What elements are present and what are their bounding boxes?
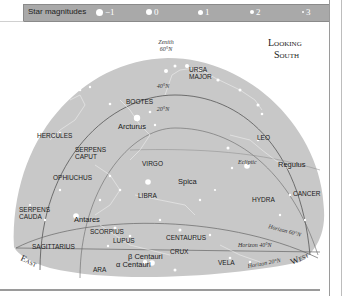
label-leo: LEO bbox=[257, 134, 270, 141]
label-centaurus: CENTAURUS bbox=[166, 234, 207, 241]
label-arcturus: Arcturus bbox=[118, 122, 146, 131]
label-spica: Spica bbox=[178, 177, 198, 186]
label-virgo: VIRGO bbox=[142, 160, 163, 167]
label-hydra: HYDRA bbox=[252, 196, 275, 203]
label-ophiuchus: OPHIUCHUS bbox=[53, 174, 93, 181]
label-ursa-major-2: MAJOR bbox=[189, 73, 212, 80]
heading-line-1: Looking bbox=[268, 37, 302, 49]
label-serpens-cauda-2: CAUDA bbox=[19, 213, 42, 220]
label-vela: VELA bbox=[218, 259, 235, 266]
zenith-latitude: 60°N bbox=[160, 46, 173, 52]
latitude-20-label: 20°N bbox=[157, 106, 170, 112]
looking-south-heading: Looking South bbox=[268, 37, 302, 61]
horizon-40-label: Horizon 40°N bbox=[237, 242, 273, 248]
label-serpens-cauda: SERPENS bbox=[19, 206, 51, 213]
label-sagittarius: SAGITTARIUS bbox=[32, 243, 76, 250]
label-scorpius: SCORPIUS bbox=[90, 228, 125, 235]
label-alpha-centauri: α Centauri bbox=[116, 260, 151, 269]
label-ara: ARA bbox=[93, 266, 107, 273]
label-serpens-caput-2: CAPUT bbox=[75, 153, 97, 160]
heading-line-2: South bbox=[268, 49, 302, 61]
label-antares: Antares bbox=[74, 215, 100, 224]
zenith-label: Zenith bbox=[158, 39, 173, 45]
label-serpens-caput: SERPENS bbox=[75, 146, 107, 153]
label-crux: CRUX bbox=[170, 248, 189, 255]
label-hercules: HERCULES bbox=[37, 132, 73, 139]
label-cancer: CANCER bbox=[293, 190, 321, 197]
ecliptic-label: Ecliptic bbox=[237, 159, 257, 165]
label-bootes: BOOTES bbox=[126, 98, 154, 105]
label-lupus: LUPUS bbox=[113, 237, 135, 244]
label-ursa-major: URSA bbox=[189, 66, 208, 73]
label-libra: LIBRA bbox=[138, 192, 157, 199]
label-regulus: Regulus bbox=[278, 160, 306, 169]
latitude-40-label: 40°N bbox=[157, 83, 170, 89]
